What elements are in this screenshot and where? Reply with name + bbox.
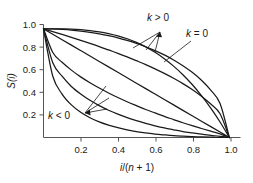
y-axis-title-close: ) — [6, 73, 17, 77]
k-negative-label: k < 0 — [48, 110, 70, 121]
x-tick-label: 0.2 — [74, 144, 87, 155]
y-tick-label: 0.6 — [23, 64, 36, 75]
k-positive-leaders — [133, 32, 162, 52]
svg-text:i/(n + 1): i/(n + 1) — [120, 162, 154, 173]
k-negative-relation: < 0 — [53, 110, 70, 121]
x-axis-title: i/(n + 1) — [120, 162, 154, 173]
k-zero-relation: = 0 — [191, 28, 208, 39]
svg-text:S(i): S(i) — [6, 73, 17, 89]
chart-figure: 1.0 0.8 0.6 0.4 0.2 0.2 0.4 0.6 0.8 1.0 … — [0, 0, 253, 183]
curve-group — [44, 29, 230, 138]
y-tick-label: 1.0 — [23, 19, 36, 30]
x-tick-label: 0.6 — [149, 144, 162, 155]
x-tick-label: 0.4 — [112, 144, 125, 155]
y-tick-label: 0.4 — [23, 87, 36, 98]
k-zero-leader — [164, 41, 191, 62]
x-tick-marks — [81, 138, 231, 142]
k-positive-relation: > 0 — [152, 12, 169, 23]
k-positive-label: k > 0 — [147, 12, 169, 23]
x-axis-title-tail: + 1) — [134, 162, 154, 173]
y-axis-title: S(i) — [6, 73, 17, 89]
x-tick-label: 0.8 — [187, 144, 200, 155]
k-negative-leaders — [85, 86, 109, 116]
y-tick-marks — [40, 25, 44, 115]
x-tick-label: 1.0 — [224, 144, 237, 155]
y-tick-label: 0.8 — [23, 42, 36, 53]
survival-curve-plot: 1.0 0.8 0.6 0.4 0.2 0.2 0.4 0.6 0.8 1.0 … — [0, 0, 253, 183]
k-zero-label: k = 0 — [186, 28, 208, 39]
y-tick-label: 0.2 — [23, 109, 36, 120]
